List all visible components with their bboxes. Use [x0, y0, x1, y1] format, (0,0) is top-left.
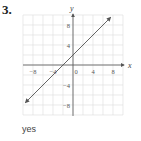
x-tick-label: 0 [74, 68, 77, 75]
coordinate-graph: x y −8−404884−4−8 [0, 0, 141, 141]
x-tick-label: −4 [50, 68, 58, 75]
x-tick-label: −8 [30, 68, 37, 75]
y-tick-label: 8 [67, 22, 70, 29]
y-axis-label: y [69, 4, 74, 13]
plotted-line [26, 18, 111, 103]
x-tick-label: 4 [91, 68, 95, 75]
answer-text: yes [22, 124, 36, 134]
x-tick-label: 8 [111, 68, 114, 75]
y-tick-label: −4 [63, 82, 71, 89]
y-tick-label: −8 [63, 102, 70, 109]
x-axis-label: x [127, 61, 132, 70]
